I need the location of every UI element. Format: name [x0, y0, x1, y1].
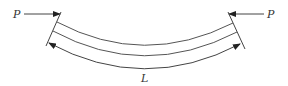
left-load-label: P: [12, 8, 21, 21]
beam-bottom-edge: [53, 31, 237, 56]
diagram-svg: P P L: [0, 0, 288, 86]
length-label: L: [140, 72, 148, 85]
left-end-line: [46, 12, 61, 46]
right-load-label: P: [266, 8, 275, 21]
beam-diagram: P P L: [0, 0, 288, 86]
beam-body: [53, 22, 237, 56]
right-end-line: [228, 12, 245, 49]
beam-top-edge: [57, 22, 233, 45]
